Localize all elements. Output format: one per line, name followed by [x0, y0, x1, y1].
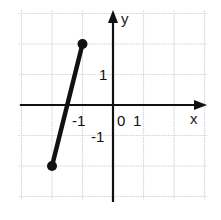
- endpoint-upper: [78, 39, 88, 49]
- tick-label-x-pos1: 1: [133, 112, 141, 129]
- y-axis-arrow-icon: [108, 10, 118, 23]
- tick-label-x-neg1: -1: [72, 112, 85, 129]
- endpoint-lower: [47, 161, 57, 171]
- x-axis-label: x: [190, 110, 198, 127]
- tick-label-y-pos1: 1: [99, 66, 107, 83]
- y-axis-label: y: [121, 10, 129, 27]
- tick-label-origin: 0: [117, 112, 125, 129]
- tick-label-y-neg1: -1: [91, 128, 104, 145]
- coordinate-plane: y x -1 0 1 1 -1: [0, 0, 221, 220]
